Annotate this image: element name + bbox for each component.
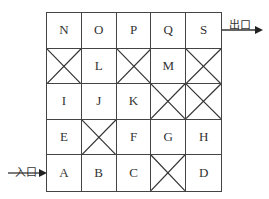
blocked-cell — [47, 49, 82, 85]
cell-i: I — [47, 84, 82, 120]
cell-l: L — [82, 49, 117, 85]
entrance-arrow-icon — [8, 168, 48, 178]
cell-o: O — [82, 13, 117, 49]
cross-icon — [186, 84, 221, 119]
blocked-cell — [117, 49, 152, 85]
cross-icon — [82, 120, 116, 155]
cell-label: O — [94, 22, 103, 38]
cell-label: Q — [164, 22, 173, 38]
cross-icon — [186, 49, 221, 84]
cell-j: J — [82, 84, 117, 120]
cell-m: M — [151, 49, 186, 85]
cell-label: N — [59, 22, 68, 38]
blocked-cell — [151, 155, 186, 191]
cell-q: Q — [151, 13, 186, 49]
cell-c: C — [117, 155, 152, 191]
cell-label: F — [130, 129, 137, 145]
cell-label: C — [129, 165, 138, 181]
cell-n: N — [47, 13, 82, 49]
blocked-cell — [82, 120, 117, 156]
cell-label: L — [95, 58, 103, 74]
cell-d: D — [186, 155, 221, 191]
blocked-cell — [186, 84, 221, 120]
cell-label: P — [130, 22, 137, 38]
exit-arrow-icon — [222, 25, 264, 35]
cross-icon — [151, 84, 185, 119]
cross-icon — [47, 49, 81, 84]
cell-f: F — [117, 120, 152, 156]
cell-label: E — [60, 129, 68, 145]
cell-g: G — [151, 120, 186, 156]
cell-label: K — [129, 93, 138, 109]
cell-e: E — [47, 120, 82, 156]
cell-s: S — [186, 13, 221, 49]
cell-label: H — [199, 129, 208, 145]
cell-b: B — [82, 155, 117, 191]
cell-p: P — [117, 13, 152, 49]
blocked-cell — [151, 84, 186, 120]
maze-grid: NOPQSLMIJKEFGHABCD — [46, 12, 222, 192]
cell-label: S — [200, 22, 207, 38]
cell-a: A — [47, 155, 82, 191]
cell-label: I — [62, 93, 66, 109]
cell-label: A — [59, 165, 68, 181]
cell-label: G — [164, 129, 173, 145]
blocked-cell — [186, 49, 221, 85]
cell-h: H — [186, 120, 221, 156]
cell-label: J — [96, 93, 101, 109]
cell-label: D — [199, 165, 208, 181]
cell-k: K — [117, 84, 152, 120]
cell-label: M — [163, 58, 175, 74]
cross-icon — [151, 155, 185, 191]
cross-icon — [117, 49, 151, 84]
cell-label: B — [94, 165, 103, 181]
